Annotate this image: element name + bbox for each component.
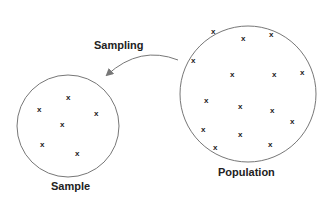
sample-point-marker: x [40,140,45,149]
sample-point-marker: x [66,93,71,102]
population-point-marker: x [238,102,243,111]
population-point-marker: x [201,125,206,134]
population-point-marker: x [268,140,273,149]
population-point-marker: x [213,143,218,152]
sampling-label: Sampling [94,39,144,51]
population-circle [180,26,316,162]
population-point-marker: x [300,68,305,77]
population-point-marker: x [290,117,295,126]
population-point-marker: x [238,130,243,139]
sample-point-marker: x [75,149,80,158]
population-points: xxxxxxxxxxxxxxx [191,27,305,152]
sample-point-marker: x [37,105,42,114]
population-point-marker: x [270,106,275,115]
population-point-marker: x [211,27,216,36]
sample-circle [17,75,119,177]
sample-point-marker: x [60,120,65,129]
population-point-marker: x [241,34,246,43]
population-label: Population [218,166,275,178]
population-point-marker: x [272,70,277,79]
population-point-marker: x [269,30,274,39]
sampling-diagram: Sampling Sample Population xxxxxxxxxxxxx… [0,0,328,198]
sample-points: xxxxxx [37,93,99,158]
population-point-marker: x [204,96,209,105]
sampling-arrow [107,55,178,75]
sample-label: Sample [51,180,90,192]
sample-point-marker: x [94,109,99,118]
population-point-marker: x [191,56,196,65]
population-point-marker: x [230,70,235,79]
